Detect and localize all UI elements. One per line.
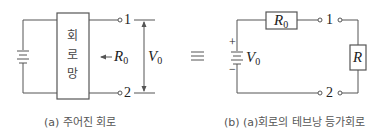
terminal-2-label-b: 2: [326, 86, 333, 100]
network-label-3: 망: [67, 68, 78, 80]
caption-a: (a) 주어진 회로: [44, 117, 116, 128]
network-label-1: 회: [67, 30, 78, 42]
v-symbol: V: [148, 48, 157, 64]
terminal-2-label: 2: [124, 86, 131, 100]
minus-sign: −: [229, 63, 236, 75]
load-resistor-label: R: [353, 50, 362, 65]
network-label-2: 로: [67, 49, 78, 61]
terminal-1-label: 1: [124, 13, 131, 27]
terminal-2-node: [118, 91, 122, 95]
v-subscript: 0: [157, 55, 162, 66]
open-circuit-voltage-label: V0: [148, 49, 162, 66]
v0-subscript: 0: [255, 56, 260, 67]
r-symbol: R: [114, 48, 123, 64]
r0-subscript: 0: [283, 19, 288, 30]
terminal-1-label-b: 1: [326, 13, 333, 27]
battery-icon: [17, 51, 29, 63]
equivalence-icon: [191, 52, 204, 60]
v0-symbol: V: [246, 49, 255, 65]
terminal-1-node: [118, 18, 122, 22]
plus-sign: +: [229, 36, 236, 48]
caption-b: (b) (a)회로의 테브낭 등가회로: [224, 117, 365, 128]
given-circuit-wiring: [17, 13, 155, 99]
source-voltage-label: V0: [246, 50, 260, 67]
input-resistance-label: R0: [114, 49, 128, 66]
series-resistor-label: R0: [274, 13, 288, 30]
r0-symbol: R: [274, 12, 283, 28]
r-subscript: 0: [123, 55, 128, 66]
